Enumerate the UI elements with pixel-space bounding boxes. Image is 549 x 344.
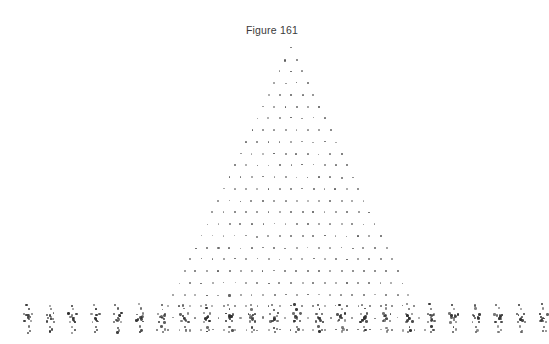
baseline-cluster-dot (69, 321, 72, 324)
lattice-dot (194, 317, 196, 319)
lattice-dot (279, 164, 281, 166)
lattice-dot (296, 82, 298, 84)
lattice-dot (262, 129, 264, 131)
baseline-cluster-dot (136, 314, 138, 316)
lattice-dot (273, 153, 275, 155)
lattice-dot (335, 258, 337, 260)
baseline-cluster-dot (495, 304, 497, 306)
baseline-cluster-dot (277, 312, 279, 314)
baseline-cluster-dot (453, 326, 455, 328)
baseline-cluster-core-dot (276, 315, 278, 317)
lattice-dot (279, 141, 281, 143)
lattice-dot (346, 259, 348, 261)
lattice-dot (194, 270, 196, 272)
baseline-cluster-dot (545, 321, 547, 323)
baseline-cluster-dot (317, 325, 320, 328)
lattice-dot (235, 282, 237, 284)
lattice-dot (284, 59, 286, 61)
lattice-dot (341, 270, 343, 272)
lattice-dot (385, 294, 387, 296)
baseline-cluster-dot (497, 331, 499, 333)
baseline-cluster-dot (409, 329, 412, 332)
lattice-dot (346, 236, 348, 238)
lattice-dot (363, 294, 365, 296)
baseline-cluster-dot (293, 303, 296, 306)
lattice-dot (352, 177, 354, 179)
lattice-dot (206, 247, 208, 249)
baseline-cluster-core-dot (249, 316, 251, 318)
baseline-cluster-dot (363, 326, 365, 328)
lattice-dot (234, 305, 236, 307)
lattice-dot (290, 282, 292, 284)
lattice-dot (189, 282, 191, 284)
lattice-dot (273, 129, 275, 131)
lattice-dot (262, 270, 264, 272)
lattice-dot (212, 235, 214, 237)
lattice-dot (268, 94, 270, 96)
baseline-cluster-dot (523, 313, 525, 315)
lattice-dot (291, 164, 293, 166)
lattice-dot (279, 305, 281, 307)
baseline-cluster-core-dot (118, 318, 121, 321)
lattice-dot (284, 317, 286, 319)
lattice-dot (329, 294, 331, 296)
lattice-dot (290, 235, 292, 237)
baseline-cluster-core-dot (519, 318, 522, 321)
lattice-dot (312, 329, 314, 331)
baseline-cluster-dot (231, 320, 234, 323)
baseline-cluster-dot (409, 326, 411, 328)
lattice-dot (217, 270, 219, 272)
baseline-cluster-dot (319, 308, 321, 310)
lattice-dot (257, 305, 259, 307)
lattice-dot (358, 211, 360, 213)
lattice-dot (324, 141, 326, 143)
lattice-dot (357, 188, 359, 190)
lattice-dot (223, 329, 225, 331)
lattice-dot (402, 283, 404, 285)
baseline-cluster-core-dot (95, 314, 98, 317)
lattice-dot (341, 177, 343, 179)
lattice-dot (357, 235, 359, 237)
lattice-dot (391, 329, 393, 331)
lattice-dot (307, 270, 309, 272)
baseline-cluster-dot (228, 326, 230, 328)
lattice-dot (296, 200, 298, 202)
baseline-cluster-core-dot (496, 314, 499, 317)
baseline-cluster-core-dot (207, 316, 209, 318)
baseline-cluster-dot (427, 321, 429, 323)
baseline-cluster-dot (184, 326, 186, 328)
lattice-dot (318, 223, 320, 225)
baseline-cluster-dot (225, 313, 227, 315)
lattice-dot (329, 270, 331, 272)
lattice-dot (296, 59, 298, 61)
baseline-cluster-dot (187, 312, 189, 314)
lattice-dot (402, 329, 404, 331)
baseline-cluster-dot (163, 321, 166, 324)
lattice-dot (251, 153, 253, 155)
baseline-cluster-dot (478, 321, 480, 323)
lattice-dot (307, 247, 309, 249)
lattice-dot (246, 329, 248, 331)
baseline-cluster-dot (430, 325, 433, 328)
baseline-cluster-dot (317, 304, 319, 306)
baseline-cluster-dot (90, 313, 92, 315)
baseline-cluster-dot (29, 330, 31, 332)
baseline-cluster-dot (251, 331, 253, 333)
lattice-dot (301, 70, 303, 72)
baseline-cluster-dot (408, 308, 410, 310)
lattice-dot (335, 235, 337, 237)
lattice-dot (407, 294, 409, 296)
lattice-dot (256, 330, 258, 332)
baseline-cluster-dot (139, 325, 141, 327)
baseline-cluster-dot (229, 318, 231, 320)
baseline-cluster-dot (95, 308, 97, 310)
baseline-cluster-dot (494, 321, 497, 324)
lattice-dot (267, 117, 269, 119)
baseline-cluster-dot (225, 320, 227, 322)
lattice-dot (172, 294, 174, 296)
lattice-dot (346, 211, 348, 213)
lattice-dot (329, 200, 331, 202)
baseline-cluster-dot (138, 303, 140, 305)
lattice-dot (206, 270, 208, 272)
lattice-dot (290, 211, 292, 213)
